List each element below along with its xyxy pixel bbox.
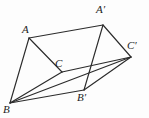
prism-drawing: [0, 0, 149, 118]
vertex-label-Bp: B′: [77, 92, 86, 103]
geometry-figure: ABCA′B′C′: [0, 0, 149, 118]
vertex-label-Cp: C′: [127, 40, 137, 51]
vertex-label-Ap: A′: [96, 4, 105, 15]
vertex-label-B: B: [3, 104, 10, 115]
vertex-label-C: C: [55, 58, 62, 69]
vertex-label-A: A: [22, 24, 29, 35]
edge-B-Cp: [10, 57, 131, 103]
edge-A-Ap: [29, 25, 103, 38]
edge-Ap-Bp: [84, 25, 103, 90]
edge-group: [10, 25, 131, 103]
